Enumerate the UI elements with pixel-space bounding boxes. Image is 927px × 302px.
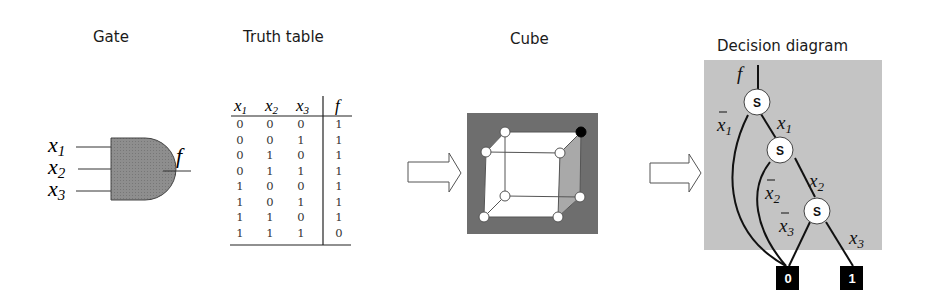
truth-table-cell: 1 xyxy=(297,195,304,209)
truth-table-cell: 0 xyxy=(297,148,304,162)
and-gate-icon xyxy=(111,138,176,200)
truth-table-cell: 1 xyxy=(335,195,342,209)
truth-table-cell: 0 xyxy=(236,133,243,147)
truth-table-cell: 1 xyxy=(297,164,304,178)
cube-vertex xyxy=(500,191,510,201)
truth-table-cell: 1 xyxy=(335,133,342,147)
dd-terminal-0-label: 0 xyxy=(784,271,791,286)
truth-table-cell: 0 xyxy=(236,164,243,178)
right-arrow-icon xyxy=(650,154,701,192)
dd-node-s1-label: S xyxy=(753,96,761,110)
right-arrow-icon xyxy=(408,153,461,192)
boolean-cube xyxy=(467,113,598,234)
truth-table-cell: 1 xyxy=(297,226,304,240)
truth-table-cell: 1 xyxy=(266,148,273,162)
cube-vertex xyxy=(500,127,510,137)
tt-header-x1: x1 xyxy=(233,96,247,116)
cube-vertex xyxy=(553,212,563,222)
truth-table-cell: 0 xyxy=(266,179,273,193)
dd-node-s3-label: S xyxy=(813,205,821,219)
truth-table-cell: 1 xyxy=(335,117,342,131)
cube-vertex-filled xyxy=(576,127,586,137)
truth-table-cell: 1 xyxy=(335,179,342,193)
truth-table: x1 x2 x3 f 00010011010101111001101111011… xyxy=(230,96,352,245)
cube-vertex xyxy=(479,212,489,222)
decision-diagram: S S S 0 1 f x1 x1 x2 x2 x3 x3 xyxy=(704,60,882,290)
cube-vertex xyxy=(555,148,565,158)
truth-table-cell: 0 xyxy=(297,210,304,224)
truth-table-cell: 1 xyxy=(266,164,273,178)
cube-vertex xyxy=(481,147,491,157)
dd-terminal-1-label: 1 xyxy=(848,271,855,286)
tt-header-f: f xyxy=(335,96,342,115)
truth-table-cell: 1 xyxy=(335,148,342,162)
truth-table-cell: 0 xyxy=(266,133,273,147)
tt-header-x3: x3 xyxy=(295,96,310,116)
truth-table-cell: 1 xyxy=(236,195,243,209)
truth-table-cell: 1 xyxy=(266,210,273,224)
gate-x1-sub: 1 xyxy=(58,143,66,159)
truth-table-cell: 0 xyxy=(236,148,243,162)
truth-table-cell: 1 xyxy=(236,210,243,224)
truth-table-cell: 0 xyxy=(297,117,304,131)
truth-table-cell: 1 xyxy=(266,226,273,240)
dd-node-s2-label: S xyxy=(776,144,784,158)
truth-table-cell: 0 xyxy=(297,179,304,193)
truth-table-cell: 1 xyxy=(335,164,342,178)
and-gate-diagram: x1 x2 x3 f xyxy=(47,132,191,203)
truth-table-cell: 1 xyxy=(297,133,304,147)
truth-table-cell: 0 xyxy=(236,117,243,131)
gate-output-f-label: f xyxy=(176,143,185,168)
truth-table-cell: 0 xyxy=(335,226,342,240)
truth-table-rows: 00010011010101111001101111011110 xyxy=(236,117,342,240)
truth-table-cell: 1 xyxy=(236,226,243,240)
truth-table-cell: 1 xyxy=(236,179,243,193)
tt-header-x2: x2 xyxy=(264,96,279,116)
truth-table-cell: 0 xyxy=(266,195,273,209)
truth-table-cell: 0 xyxy=(266,117,273,131)
truth-table-cell: 1 xyxy=(335,210,342,224)
cube-vertex xyxy=(575,192,585,202)
